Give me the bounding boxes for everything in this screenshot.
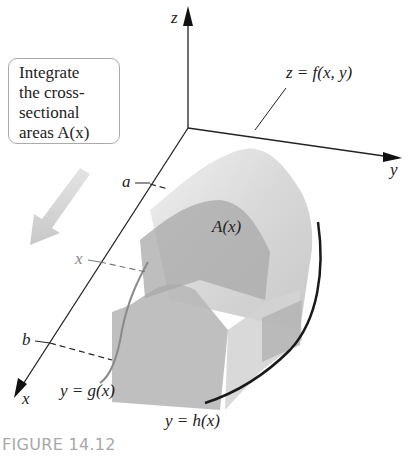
figure-caption: FIGURE 14.12 — [2, 435, 116, 454]
curve-h-label: y = h(x) — [165, 411, 220, 431]
z-axis-label: z — [171, 8, 178, 28]
integrate-arrow-icon — [30, 168, 90, 245]
bound-b-label: b — [22, 330, 31, 350]
callout-box: Integrate the cross- sectional areas A(x… — [8, 58, 120, 144]
bound-b — [35, 341, 112, 360]
callout-line-1: Integrate — [19, 63, 119, 83]
callout-line-2: the cross- — [19, 83, 119, 103]
surface-leader — [255, 88, 286, 130]
slice-x-label: x — [75, 249, 83, 269]
y-axis-label: y — [390, 160, 398, 180]
curve-g-label: y = g(x) — [60, 381, 115, 401]
x-axis-label: x — [22, 389, 30, 409]
callout-line-4: areas A(x) — [19, 123, 119, 143]
bound-a — [135, 183, 168, 189]
surface-label: z = f(x, y) — [286, 63, 352, 83]
bound-a-label: a — [122, 172, 131, 192]
callout-line-3: sectional — [19, 103, 119, 123]
cross-section-label: A(x) — [212, 217, 241, 237]
solid-region — [112, 148, 312, 410]
